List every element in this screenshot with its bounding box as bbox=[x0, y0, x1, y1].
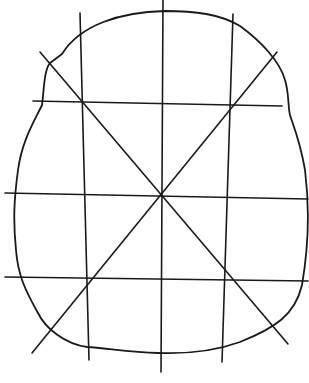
horizontal-grid-lines bbox=[5, 101, 308, 281]
horizontal-line-upper bbox=[33, 101, 282, 106]
vertical-grid-lines bbox=[80, 0, 233, 372]
diagonal-lines bbox=[32, 52, 288, 353]
diagonal-line-top-right-to-bottom-left bbox=[32, 52, 277, 353]
vertical-line-center bbox=[161, 0, 163, 372]
horizontal-line-middle bbox=[5, 193, 308, 199]
sketch-canvas bbox=[0, 0, 309, 383]
horizontal-line-lower bbox=[5, 277, 308, 281]
vertical-line-left bbox=[80, 13, 89, 360]
vertical-line-right bbox=[222, 14, 233, 362]
